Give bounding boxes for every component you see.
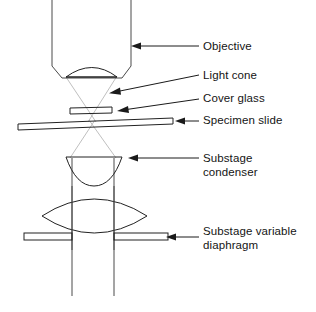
condenser-barrel-overlay <box>72 186 114 250</box>
condenser-main-lens <box>42 199 147 233</box>
label-substage-variable-diaphragm-line2: diaphragm <box>203 239 258 251</box>
lower-light-cone <box>70 120 116 158</box>
leader-substage-condenser <box>128 155 199 162</box>
leader-objective <box>131 43 199 50</box>
label-cover-glass: Cover glass <box>203 92 265 104</box>
leader-substage-variable-diaphragm <box>166 234 199 241</box>
cover-glass <box>70 107 112 114</box>
upper-light-cone <box>66 76 117 122</box>
objective-barrel <box>52 0 131 78</box>
microscope-diagram: Objective Light cone Cover glass Specime… <box>0 0 316 312</box>
label-substage-variable-diaphragm-line1: Substage variable <box>203 225 297 237</box>
objective-front-lens <box>66 68 117 78</box>
diaphragm-left-blade <box>24 233 72 240</box>
leader-cover-glass <box>117 99 199 113</box>
label-objective: Objective <box>203 40 252 52</box>
label-substage-condenser-line1: Substage <box>203 152 252 164</box>
label-substage-condenser-line2: condenser <box>203 166 258 178</box>
label-specimen-slide: Specimen slide <box>203 114 282 126</box>
leader-specimen-slide <box>175 118 199 125</box>
label-light-cone: Light cone <box>203 69 257 81</box>
diaphragm-right-blade <box>114 233 168 240</box>
specimen-slide <box>18 118 173 130</box>
diagram-canvas: Objective Light cone Cover glass Specime… <box>0 0 316 312</box>
